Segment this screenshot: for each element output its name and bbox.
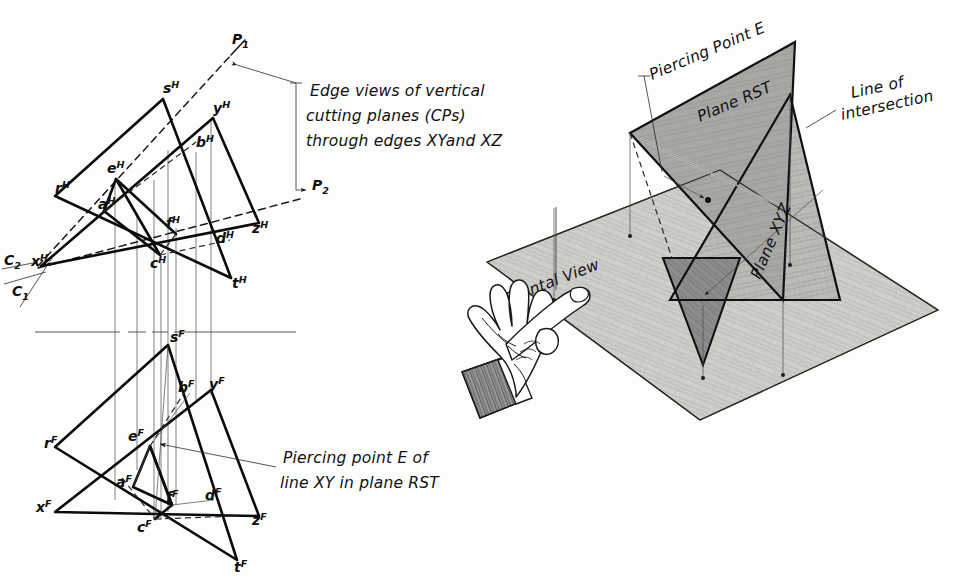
edge-views-line-3: through edges XYand XZ — [306, 132, 502, 150]
hand-thumb — [536, 328, 559, 354]
piercing-point-line-2: line XY in plane RST — [280, 474, 440, 492]
figure-root: sH yH bH rH eH aH fH dH zH cH tH xH P1 P… — [0, 0, 958, 587]
hand-fingertip — [570, 287, 588, 302]
edge-views-line-2: cutting planes (CPs) — [306, 107, 466, 125]
descriptive-geometry-figure: sH yH bH rH eH aH fH dH zH cH tH xH P1 P… — [0, 0, 958, 587]
edge-views-line-1: Edge views of vertical — [310, 82, 485, 100]
piercing-point-line-1: Piercing point E of — [283, 449, 430, 467]
